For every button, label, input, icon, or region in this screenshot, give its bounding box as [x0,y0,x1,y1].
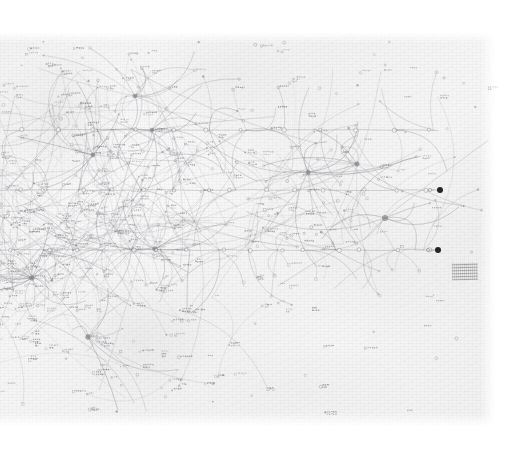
screenshot-canvas [0,0,519,450]
scanned-paper-sheet [0,33,494,425]
scan-edge-falloff [0,33,494,425]
caption-text-block [452,263,478,281]
paper-shading-mottle [0,33,494,425]
paper-grain-texture [0,33,494,425]
